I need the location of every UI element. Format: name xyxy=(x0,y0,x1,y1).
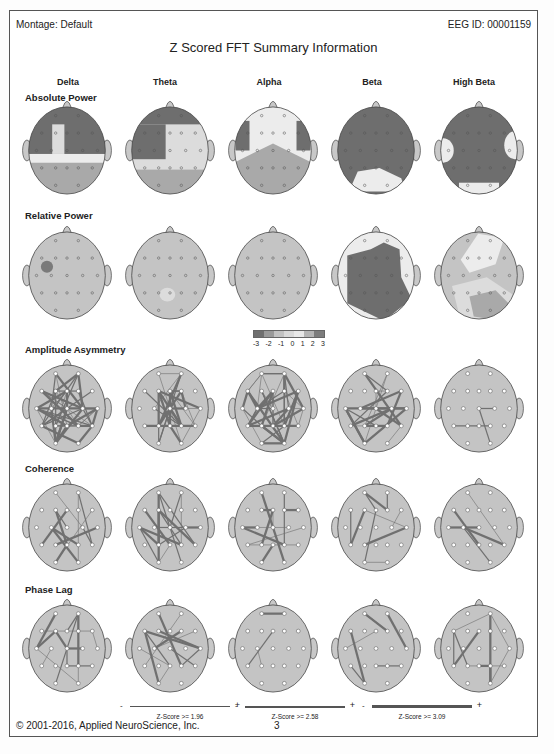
band-label-delta: Delta xyxy=(18,77,118,87)
z-legend-1: -+ Z-Score >= 1.96 xyxy=(120,703,240,720)
z-legend-line xyxy=(372,705,472,708)
head-map-amplitude-asymmetry-theta xyxy=(119,351,221,459)
head-map-absolute-power-beta xyxy=(325,93,427,201)
head-map-amplitude-asymmetry-alpha xyxy=(222,351,324,459)
head-map-coherence-delta xyxy=(16,470,118,578)
head-map-absolute-power-delta xyxy=(16,93,118,201)
page-number: 3 xyxy=(274,720,280,731)
band-label-theta: Theta xyxy=(115,77,215,87)
head-map-phase-lag-theta xyxy=(119,591,221,699)
head-map-relative-power-theta xyxy=(119,218,221,326)
band-label-beta: Beta xyxy=(322,77,422,87)
head-map-relative-power-beta xyxy=(325,218,427,326)
head-map-phase-lag-beta xyxy=(325,591,427,699)
report-frame: Montage: Default EEG ID: 00001159 Z Scor… xyxy=(9,10,538,737)
head-map-coherence-alpha xyxy=(222,470,324,578)
band-label-high-beta: High Beta xyxy=(424,77,524,87)
head-map-phase-lag-alpha xyxy=(222,591,324,699)
head-map-absolute-power-high-beta xyxy=(428,93,530,201)
page-title: Z Scored FFT Summary Information xyxy=(10,40,537,55)
z-legend-2: -+ Z-Score >= 2.58 xyxy=(235,703,355,720)
head-map-amplitude-asymmetry-beta xyxy=(325,351,427,459)
z-legend-line xyxy=(245,706,345,708)
head-map-relative-power-alpha xyxy=(222,218,324,326)
z-legend-label: Z-Score >= 2.58 xyxy=(235,713,355,720)
montage-label: Montage: Default xyxy=(16,19,92,30)
z-legend-label: Z-Score >= 1.96 xyxy=(120,713,240,720)
head-map-phase-lag-high-beta xyxy=(428,591,530,699)
head-map-relative-power-delta xyxy=(16,218,118,326)
z-legend-line xyxy=(130,706,230,707)
head-map-relative-power-high-beta xyxy=(428,218,530,326)
z-legend-3: -+ Z-Score >= 3.09 xyxy=(362,703,482,720)
eeg-id-label: EEG ID: 00001159 xyxy=(448,19,531,30)
head-map-amplitude-asymmetry-high-beta xyxy=(428,351,530,459)
color-scale-legend: -3-2-10123 xyxy=(253,330,325,347)
head-map-coherence-theta xyxy=(119,470,221,578)
head-map-phase-lag-delta xyxy=(16,591,118,699)
head-map-amplitude-asymmetry-delta xyxy=(16,351,118,459)
head-map-coherence-high-beta xyxy=(428,470,530,578)
head-map-absolute-power-alpha xyxy=(222,93,324,201)
head-map-coherence-beta xyxy=(325,470,427,578)
z-legend-label: Z-Score >= 3.09 xyxy=(362,713,482,720)
color-scale-bar xyxy=(253,330,325,338)
color-scale-ticks: -3-2-10123 xyxy=(253,340,325,347)
band-label-alpha: Alpha xyxy=(219,77,319,87)
head-map-absolute-power-theta xyxy=(119,93,221,201)
copyright: © 2001-2016, Applied NeuroScience, Inc. xyxy=(16,720,200,731)
